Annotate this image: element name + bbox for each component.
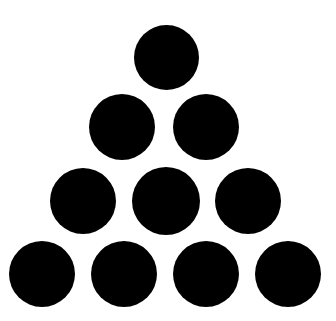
dot-2 — [89, 94, 155, 160]
dot-pattern-canvas — [0, 0, 336, 321]
dot-rows-container — [0, 0, 336, 321]
dot-10 — [255, 241, 321, 307]
dot-6 — [215, 168, 281, 234]
dot-7 — [9, 241, 75, 307]
dot-4 — [50, 168, 116, 234]
dot-1 — [134, 25, 199, 90]
dot-3 — [173, 94, 239, 160]
dot-8 — [91, 241, 157, 307]
dot-5 — [132, 167, 200, 235]
dot-9 — [173, 241, 239, 307]
